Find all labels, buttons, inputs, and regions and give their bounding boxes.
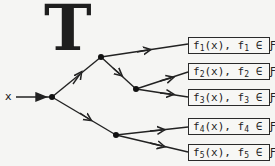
output-box-5: f5(x), f5 ∈ Ƒ: [188, 144, 270, 161]
output-box-1: f1(x), f1 ∈ Ƒ: [188, 37, 270, 54]
output-box-4: f4(x), f4 ∈ Ƒ: [188, 118, 270, 135]
output-box-3: f3(x), f3 ∈ Ƒ: [188, 89, 270, 106]
root-node: [49, 94, 55, 100]
output-box-2: f2(x), f2 ∈ Ƒ: [188, 63, 270, 80]
mid-node: [133, 86, 139, 92]
tree-edges: [0, 0, 275, 166]
lower-node: [113, 132, 119, 138]
upper-node: [98, 54, 104, 60]
tree-diagram: T x: [0, 0, 275, 166]
